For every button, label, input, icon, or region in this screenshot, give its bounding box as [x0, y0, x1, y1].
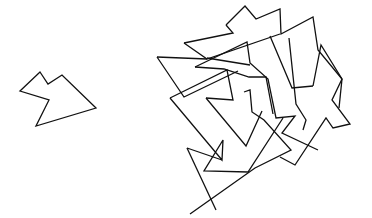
piece-outline: [207, 58, 250, 65]
shape-drawing: [0, 0, 372, 218]
target-shape: [20, 72, 96, 126]
target-polygon: [20, 72, 96, 126]
puzzle-canvas: [0, 0, 372, 218]
piece-outline: [184, 25, 233, 43]
piece-outline: [206, 98, 262, 146]
piece-outline: [184, 34, 280, 59]
piece-outline: [157, 57, 207, 59]
piece-outline: [170, 98, 283, 172]
piece-outline: [170, 70, 233, 100]
overlapping-pieces-cluster: [157, 6, 350, 214]
piece-outline: [195, 67, 273, 114]
piece-outline: [195, 42, 318, 150]
piece-outline: [190, 90, 291, 214]
piece-outline: [157, 57, 238, 97]
